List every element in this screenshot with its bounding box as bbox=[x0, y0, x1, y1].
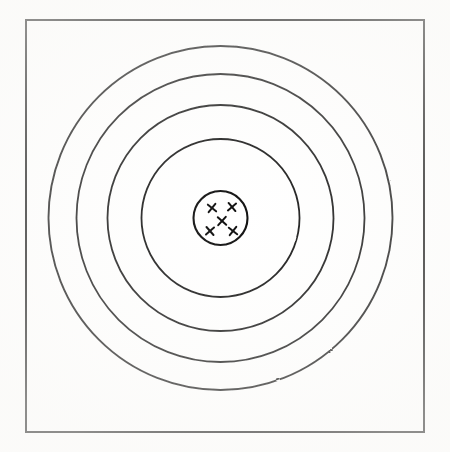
canvas-background bbox=[0, 0, 450, 452]
figure-root: Figure bbox=[0, 0, 450, 452]
target-diagram bbox=[0, 0, 450, 452]
